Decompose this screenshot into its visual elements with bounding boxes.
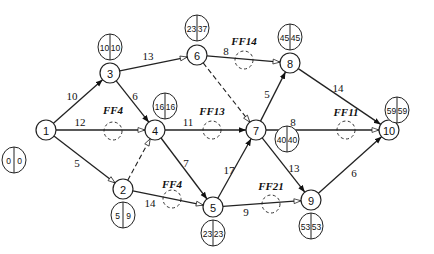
event-times-badge-3: 1010 (98, 34, 122, 60)
free-float-label: FF11 (332, 106, 358, 118)
event-times-badge-8: 4545 (278, 24, 302, 50)
free-float-label: FF13 (198, 105, 225, 117)
latest-time: 16 (166, 102, 176, 112)
latest-time: 23 (214, 229, 224, 239)
latest-time: 40 (288, 135, 298, 145)
event-node-6: 6 (187, 45, 207, 65)
cpm-network-diagram: 101251361171417985813146FF4FF13FF14FF11F… (0, 0, 434, 254)
latest-time: 10 (111, 43, 121, 53)
activity-duration-label: 6 (132, 90, 138, 102)
event-times-badge-10: 5959 (385, 97, 409, 123)
activity-duration-label: 14 (333, 82, 345, 94)
free-float-label: FF21 (257, 180, 284, 192)
event-node-2: 2 (113, 179, 133, 199)
earliest-time: 16 (155, 102, 165, 112)
event-times-badge-5: 2323 (201, 220, 225, 246)
earliest-time: 23 (187, 24, 197, 34)
activity-duration-label: 12 (75, 116, 86, 128)
node-number: 2 (120, 184, 126, 196)
event-node-4: 4 (145, 120, 165, 140)
event-times-badge-4: 1616 (153, 93, 177, 119)
node-number: 4 (152, 125, 158, 137)
latest-time: 37 (198, 24, 208, 34)
latest-time: 53 (312, 222, 322, 232)
earliest-time: 59 (387, 106, 397, 116)
activity-duration-label: 5 (264, 88, 270, 100)
activity-duration-label: 6 (351, 167, 357, 179)
event-node-1: 1 (36, 120, 56, 140)
latest-time: 0 (17, 156, 22, 166)
node-number: 5 (210, 202, 216, 214)
activity-duration-label: 5 (74, 157, 80, 169)
activity-duration-label: 9 (243, 206, 249, 218)
node-number: 9 (308, 195, 314, 207)
earliest-time: 5 (115, 211, 120, 221)
activity-duration-label: 11 (183, 116, 194, 128)
dummy-activity-2-4 (128, 139, 150, 180)
activity-duration-label: 8 (290, 116, 296, 128)
free-float-label: FF4 (102, 104, 124, 116)
earliest-time: 40 (277, 135, 287, 145)
activity-arrow-1-2 (54, 136, 115, 183)
activity-duration-label: 14 (145, 197, 157, 209)
event-node-9: 9 (301, 190, 321, 210)
event-node-3: 3 (100, 63, 120, 83)
activity-arrow-2-5 (133, 191, 203, 205)
earliest-time: 45 (280, 33, 290, 43)
activity-arrow-5-9 (223, 201, 301, 207)
event-times-badge-6: 2337 (185, 15, 209, 41)
free-float-marker (262, 195, 280, 213)
earliest-time: 23 (203, 229, 213, 239)
activity-duration-label: 8 (223, 45, 229, 57)
event-node-5: 5 (203, 197, 223, 217)
event-times-badge-1: 00 (2, 147, 26, 173)
event-times-badge-7: 4040 (275, 126, 299, 152)
node-number: 10 (383, 125, 395, 137)
free-float-layer (104, 51, 355, 213)
earliest-time: 53 (301, 222, 311, 232)
earliest-time: 10 (100, 43, 110, 53)
activity-duration-label: 17 (224, 164, 236, 176)
activity-duration-label: 13 (143, 50, 155, 62)
node-number: 8 (287, 58, 293, 70)
event-node-8: 8 (280, 53, 300, 73)
event-node-7: 7 (246, 120, 266, 140)
node-number: 3 (107, 68, 113, 80)
node-number: 7 (253, 125, 259, 137)
node-number: 6 (194, 50, 200, 62)
free-float-label: FF14 (230, 35, 257, 47)
activity-arrow-3-6 (120, 57, 187, 71)
activity-arrow-6-8 (207, 56, 280, 62)
activity-duration-label: 13 (289, 162, 301, 174)
free-float-marker (104, 122, 122, 140)
activity-duration-label: 10 (67, 90, 79, 102)
latest-time: 9 (126, 211, 131, 221)
event-times-badge-9: 5353 (299, 213, 323, 239)
node-number: 1 (43, 125, 49, 137)
latest-time: 59 (398, 106, 408, 116)
activity-arrow-9-10 (318, 137, 381, 194)
free-float-label: FF4 (161, 178, 183, 190)
earliest-time: 0 (6, 156, 11, 166)
latest-time: 45 (291, 33, 301, 43)
event-times-badge-2: 59 (111, 202, 135, 228)
activity-duration-label: 7 (183, 157, 189, 169)
nodes-layer: 12345678910 (36, 45, 399, 217)
